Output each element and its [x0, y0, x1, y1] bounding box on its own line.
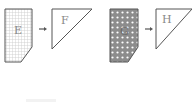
shape-f	[52, 9, 92, 49]
arrow-right-icon	[145, 27, 153, 31]
label-e: E	[14, 24, 22, 37]
label-g: G	[120, 25, 129, 38]
label-f: F	[61, 14, 69, 27]
label-h: H	[162, 13, 172, 26]
diagram-canvas: E F G H	[0, 0, 192, 106]
faint-caption-fragment	[26, 99, 56, 102]
pair-e-f: E F	[5, 9, 92, 62]
arrow-right-icon	[39, 27, 47, 31]
pair-g-h: G H	[110, 9, 192, 62]
